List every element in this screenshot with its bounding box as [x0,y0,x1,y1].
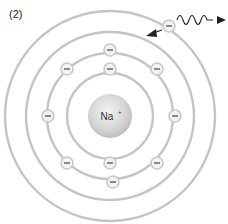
electron-icon [42,110,54,122]
electron-icon [107,176,119,188]
electron-icon [151,63,163,75]
electron-icon [169,110,181,122]
nucleus-charge: + [118,109,122,115]
electron-icon [151,157,163,169]
electron-icon [104,63,116,75]
electron-icon [61,157,73,169]
photon-arrowhead-icon [217,16,226,24]
electron-icon [104,157,116,169]
electron-icon [61,63,73,75]
transition-arrow-icon [146,29,157,37]
nucleus-label: Na [101,111,114,122]
electron-icon [104,44,116,56]
photon-wave-icon [177,16,213,25]
outer-electron-icon [163,20,175,32]
atom-diagram: Na + [0,0,228,224]
